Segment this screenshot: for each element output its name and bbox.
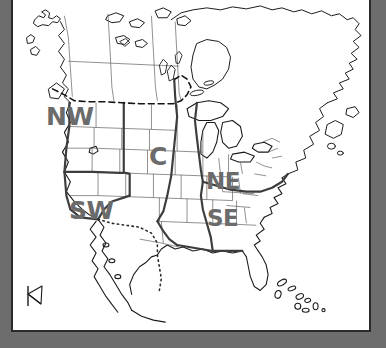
region-label-se[interactable]: SE [207, 207, 238, 230]
great-lakes [89, 101, 272, 162]
us-mexico-border [98, 219, 161, 290]
bahamas-islets [274, 278, 325, 312]
canada-coastline [27, 6, 361, 174]
map-canvas[interactable]: NW SW C NE SE [11, 0, 371, 332]
map-window: NW SW C NE SE [0, 0, 386, 348]
interior-lakes [120, 39, 214, 97]
region-label-ne[interactable]: NE [206, 170, 240, 193]
resize-corner-icon [26, 284, 52, 310]
us-east-gulf-coast [130, 174, 325, 312]
resize-corner-handle[interactable] [26, 284, 52, 310]
us-canada-border [53, 75, 191, 104]
north-america-map [13, 0, 369, 330]
region-label-nw[interactable]: NW [46, 104, 94, 129]
region-label-c[interactable]: C [149, 144, 167, 169]
region-label-sw[interactable]: SW [69, 198, 114, 223]
